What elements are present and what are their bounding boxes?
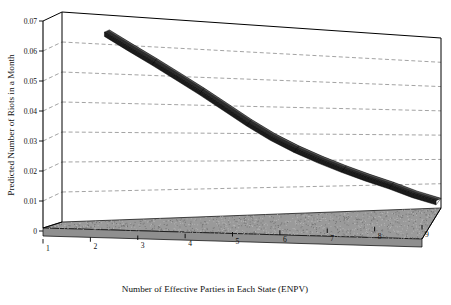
y-tick-label: 0.02 xyxy=(24,167,37,176)
x-tick-label: 1 xyxy=(46,244,50,253)
y-tick-label: 0.06 xyxy=(24,47,37,56)
x-tick-label: 5 xyxy=(236,237,240,246)
y-tick-label: 0.07 xyxy=(24,17,37,26)
x-tick-label: 8 xyxy=(378,232,382,241)
x-tick-label: 3 xyxy=(141,241,145,250)
y-tick-label: 0.04 xyxy=(24,107,37,116)
y-tick-label: 0.03 xyxy=(24,137,37,146)
y-tick-label: 0 xyxy=(33,227,37,236)
x-tick-label: 7 xyxy=(330,234,334,243)
x-tick-label: 9 xyxy=(425,230,429,239)
x-axis-title: Number of Effective Parties in Each Stat… xyxy=(122,284,308,294)
y-axis-title: Predicted Number of Riots in a Month xyxy=(6,54,16,196)
chart-figure: 00.010.020.030.040.050.060.07 123456789 … xyxy=(0,0,451,305)
y-tick-label: 0.05 xyxy=(24,77,37,86)
y-tick-label: 0.01 xyxy=(24,197,37,206)
x-tick-label: 2 xyxy=(93,242,97,251)
x-tick-label: 6 xyxy=(283,235,287,244)
riots-vs-parties-3d-line-chart: 00.010.020.030.040.050.060.07 123456789 … xyxy=(0,0,451,305)
x-tick-label: 4 xyxy=(188,239,192,248)
